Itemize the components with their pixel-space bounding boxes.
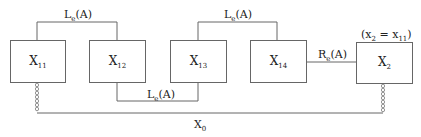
edge-label-x11-x12: Le(A) — [64, 8, 92, 23]
edge-label-x12-x13: Le(A) — [147, 88, 175, 103]
node-x14-label: X14 — [270, 54, 287, 70]
node-x13-label: X13 — [190, 54, 207, 70]
node-x2-label: X2 — [378, 55, 391, 71]
edge-label-x13-x14: Le(A) — [224, 8, 252, 23]
node-x2: X2 — [356, 42, 413, 84]
edge-label-x14-x2: Re(A) — [318, 48, 347, 63]
node-x14: X14 — [250, 40, 307, 83]
node-x13: X13 — [170, 40, 227, 83]
node-x11: X11 — [10, 40, 66, 83]
node-x11-label: X11 — [29, 54, 46, 70]
node-x12-label: X12 — [109, 54, 126, 70]
edge-label-x0: X0 — [194, 118, 206, 133]
node-x12: X12 — [89, 40, 146, 83]
annotation-x2-equals-x11: (x2 = x11) — [361, 28, 412, 43]
